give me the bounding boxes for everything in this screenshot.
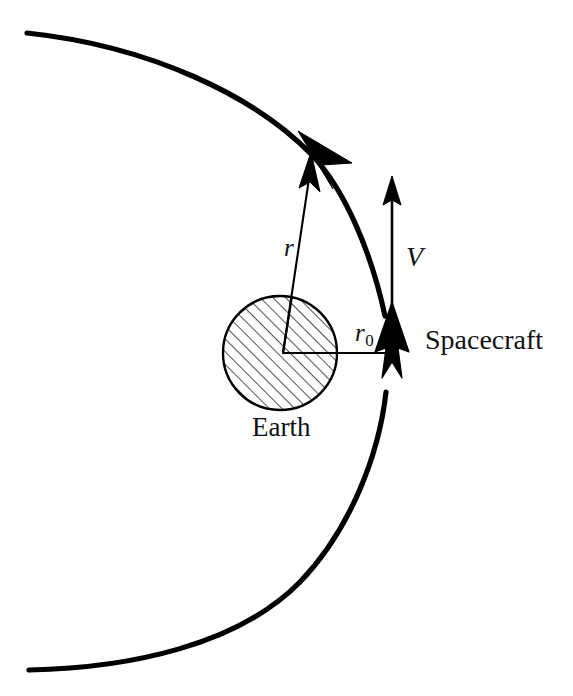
label-perigee-radius-subscript: 0	[365, 331, 374, 350]
label-velocity: V	[406, 243, 423, 271]
label-perigee-radius: r0	[355, 320, 374, 349]
orbit-upper-branch	[27, 33, 385, 316]
orbit-lower-branch	[29, 392, 386, 670]
label-perigee-radius-symbol: r	[355, 319, 365, 346]
earth-hatched-circle	[223, 296, 337, 410]
label-spacecraft: Spacecraft	[425, 326, 543, 354]
label-radius-vector: r	[284, 235, 294, 260]
label-earth: Earth	[252, 414, 310, 441]
orbital-mechanics-diagram: r r0 V Earth Spacecraft	[0, 0, 573, 696]
